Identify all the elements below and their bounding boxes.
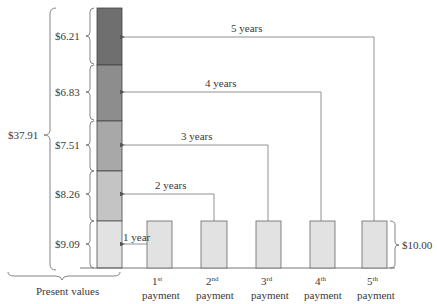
payment-bar-2	[201, 221, 227, 268]
arrow-4-years	[124, 92, 321, 221]
arrow-5-years	[124, 37, 374, 221]
present-values-label: Present values	[36, 285, 99, 297]
payment-1-word: payment	[142, 289, 180, 301]
payment-3-word: payment	[251, 289, 289, 301]
payment-labels: 1st payment 2nd payment 3rd payment 4th …	[142, 275, 395, 301]
payment-bar-4	[310, 221, 335, 268]
arrow-2-years	[124, 194, 214, 221]
label-3-years: 3 years	[181, 130, 212, 142]
stacked-present-value-column	[97, 8, 122, 268]
payment-2-word: payment	[196, 289, 234, 301]
payment-4-label: 4th	[315, 275, 326, 287]
payment-bar-1	[147, 221, 172, 268]
segment-3-years	[97, 121, 122, 171]
pv-label-4: $6.83	[55, 86, 80, 98]
payment-brace	[390, 221, 399, 268]
pv-label-5: $6.21	[55, 30, 80, 42]
payment-4-word: payment	[304, 289, 342, 301]
pv-label-3: $7.51	[55, 139, 80, 151]
payment-5-label: 5th	[367, 275, 378, 287]
payment-amount: $10.00	[402, 239, 433, 251]
segment-5-years	[97, 8, 122, 65]
label-5-years: 5 years	[231, 22, 262, 34]
segment-braces	[86, 8, 94, 268]
segment-4-years	[97, 65, 122, 121]
present-values-brace	[8, 272, 120, 280]
label-2-years: 2 years	[155, 179, 186, 191]
payment-bars	[147, 221, 387, 268]
discount-arrows	[124, 37, 374, 244]
arrow-3-years	[124, 145, 268, 221]
payment-bar-3	[256, 221, 281, 268]
payment-5-word: payment	[357, 289, 395, 301]
payment-bar-5	[362, 221, 387, 268]
payment-3-label: 3rd	[261, 275, 273, 287]
payment-2-label: 2nd	[206, 275, 219, 287]
total-present-value: $37.91	[8, 129, 38, 141]
pv-label-1: $9.09	[55, 238, 80, 250]
label-4-years: 4 years	[205, 77, 236, 89]
label-1-year: 1 year	[123, 231, 151, 243]
present-value-diagram: 1 year 2 years 3 years 4 years 5 years $…	[0, 0, 437, 304]
segment-2-years	[97, 171, 122, 221]
payment-1-label: 1st	[152, 275, 162, 287]
pv-label-2: $8.26	[55, 188, 80, 200]
segment-1-year	[97, 221, 122, 268]
